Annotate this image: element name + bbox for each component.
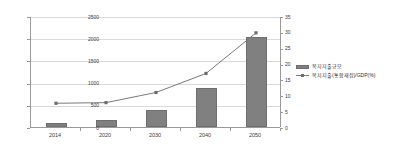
line-marker-2030 [154,91,157,94]
right-tick-mark [280,33,283,34]
right-tick-label: 35 [285,15,309,20]
line-series [31,17,281,128]
left-tick-label: 0 [69,126,99,131]
left-tick-mark [27,61,30,62]
left-tick-mark [27,17,30,18]
left-tick-mark [27,106,30,107]
right-tick-mark [280,112,283,113]
legend-item-bar: 복지지출규모 [296,64,402,70]
left-tick-label: 500 [69,103,99,108]
line-marker-2050 [254,31,257,34]
right-tick-mark [280,80,283,81]
right-tick-mark [280,49,283,50]
legend-item-line: 복지지출(통합재정)/GDP(%) [296,73,402,79]
legend: 복지지출규모 복지지출(통합재정)/GDP(%) [296,64,402,81]
x-tick-label-2030: 2030 [135,133,175,139]
x-tick-mark [130,128,131,131]
right-tick-mark [280,65,283,66]
left-tick-label: 1000 [69,81,99,86]
legend-item-line-label: 복지지출(통합재정)/GDP(%) [312,73,375,79]
left-tick-mark [27,128,30,129]
x-tick-label-2020: 2020 [85,133,125,139]
x-tick-mark [80,128,81,131]
legend-item-bar-label: 복지지출규모 [312,64,342,70]
x-tick-label-2050: 2050 [235,133,275,139]
right-tick-label: 0 [285,126,309,131]
x-tick-label-2040: 2040 [185,133,225,139]
line-marker-2014 [54,102,57,105]
left-tick-label: 1500 [69,59,99,64]
right-tick-label: 25 [285,46,309,51]
x-tick-mark [230,128,231,131]
right-tick-label: 30 [285,30,309,35]
x-tick-label-2014: 2014 [35,133,75,139]
bar-swatch-icon [296,65,309,69]
right-tick-label: 5 [285,110,309,115]
welfare-spending-chart: 05001000150020002500 05101520253035 2014… [0,0,402,152]
left-tick-label: 2500 [69,15,99,20]
plot-area [30,17,280,128]
right-tick-mark [280,17,283,18]
left-tick-mark [27,39,30,40]
left-tick-mark [27,84,30,85]
x-tick-mark [180,128,181,131]
line-marker-2040 [204,72,207,75]
left-tick-label: 2000 [69,37,99,42]
right-tick-label: 10 [285,94,309,99]
line-marker-2020 [104,101,107,104]
line-marker-icon [296,73,309,78]
x-tick-mark [280,128,281,131]
right-tick-mark [280,96,283,97]
